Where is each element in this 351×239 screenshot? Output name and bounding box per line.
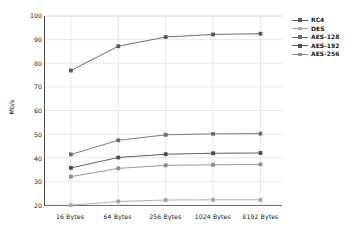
data-point-marker [164, 133, 168, 137]
data-point-marker [211, 198, 215, 202]
data-point-marker [259, 132, 263, 136]
legend-swatch-icon [292, 17, 308, 23]
series-rc4 [69, 32, 262, 73]
y-tick-label: 40 [14, 156, 42, 162]
data-point-marker [69, 166, 73, 170]
plot-area [44, 16, 282, 206]
legend-item-label: DES [311, 26, 325, 32]
x-tick-label: 1024 Bytes [195, 214, 231, 220]
data-point-marker [211, 33, 215, 37]
data-series-layer [45, 16, 282, 205]
y-tick-label: 80 [14, 61, 42, 67]
data-point-marker [259, 32, 263, 36]
legend-item-rc4[interactable]: RC4 [292, 17, 339, 23]
data-point-marker [116, 200, 120, 204]
y-tick-label: 70 [14, 84, 42, 90]
legend-item-label: AES-256 [311, 51, 339, 57]
x-axis-tick-labels: 16 Bytes64 Bytes256 Bytes1024 Bytes8192 … [44, 211, 282, 223]
data-point-marker [259, 151, 263, 155]
data-point-marker [259, 162, 263, 166]
data-point-marker [69, 175, 73, 179]
series-line [71, 34, 261, 71]
data-point-marker [164, 152, 168, 156]
legend-item-aes-256[interactable]: AES-256 [292, 51, 339, 57]
x-tick-label: 8192 Bytes [242, 214, 278, 220]
data-point-marker [211, 151, 215, 155]
data-point-marker [116, 166, 120, 170]
data-point-marker [211, 132, 215, 136]
legend-item-label: AES-128 [311, 34, 339, 40]
data-point-marker [116, 156, 120, 160]
series-des [69, 198, 262, 207]
data-point-marker [164, 35, 168, 39]
chart-legend: RC4DESAES-128AES-192AES-256 [290, 14, 342, 60]
legend-swatch-icon [292, 34, 308, 40]
x-tick-label: 256 Bytes [149, 214, 181, 220]
legend-swatch-icon [292, 43, 308, 49]
y-tick-label: 20 [14, 203, 42, 209]
legend-item-des[interactable]: DES [292, 26, 339, 32]
series-line [71, 134, 261, 155]
y-axis-tick-labels: 1009080706050403020 [8, 16, 42, 206]
data-point-marker [116, 138, 120, 142]
legend-swatch-icon [292, 26, 308, 32]
line-chart: Mb/s 1009080706050403020 16 Bytes64 Byte… [0, 0, 351, 239]
legend-item-label: AES-192 [311, 43, 339, 49]
series-aes-256 [69, 162, 262, 178]
y-tick-label: 30 [14, 179, 42, 185]
y-tick-label: 50 [14, 132, 42, 138]
legend-item-label: RC4 [311, 17, 324, 23]
legend-item-aes-192[interactable]: AES-192 [292, 43, 339, 49]
data-point-marker [116, 44, 120, 48]
y-tick-label: 60 [14, 108, 42, 114]
data-point-marker [259, 198, 263, 202]
x-tick-label: 64 Bytes [104, 214, 132, 220]
data-point-marker [211, 163, 215, 167]
y-tick-label: 100 [14, 13, 42, 19]
x-tick-label: 16 Bytes [56, 214, 84, 220]
legend-item-aes-128[interactable]: AES-128 [292, 34, 339, 40]
data-point-marker [164, 163, 168, 167]
data-point-marker [164, 198, 168, 202]
data-point-marker [69, 203, 73, 207]
legend-swatch-icon [292, 51, 308, 57]
data-point-marker [69, 69, 73, 73]
y-tick-label: 90 [14, 37, 42, 43]
data-point-marker [69, 153, 73, 157]
